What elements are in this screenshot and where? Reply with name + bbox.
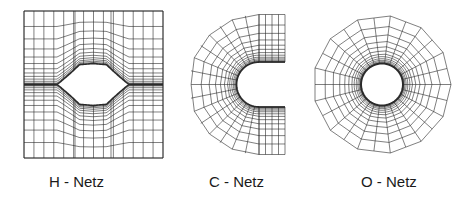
mesh-diagram: [0, 0, 475, 170]
h-mesh-grid: [24, 11, 163, 158]
o-mesh-label: O - Netz: [361, 173, 417, 190]
h-mesh-label: H - Netz: [49, 173, 104, 190]
o-mesh-grid: [315, 16, 451, 153]
c-mesh-label: C - Netz: [209, 173, 264, 190]
c-mesh-grid: [191, 15, 285, 155]
